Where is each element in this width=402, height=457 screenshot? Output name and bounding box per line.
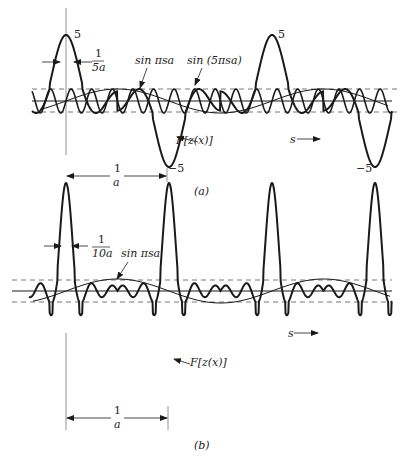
- panel-a-trough-label-2: −5: [356, 162, 372, 175]
- panel-b-period-numerator: 1: [114, 404, 121, 417]
- fourier-sampling-figure: 5 5 1 5a sin πsa sin (5πsa) F[z(x)] −5 −…: [0, 0, 402, 457]
- panel-a-trough-label: −5: [168, 162, 184, 175]
- panel-a-period-denominator: a: [113, 176, 120, 189]
- panel-a-peak-label-2: 5: [278, 28, 285, 41]
- panel-a-width-numerator: 1: [95, 47, 102, 60]
- panel-a-func-label: F[z(x)]: [175, 134, 214, 147]
- panel-a-period-numerator: 1: [114, 162, 121, 175]
- panel-b-s-axis-label: s: [288, 327, 294, 340]
- panel-b-func-label: F[z(x)]: [189, 356, 228, 369]
- panel-a-sin-fast-label: sin (5πsa): [187, 54, 242, 67]
- panel-b-sin-slow-pointer: [117, 262, 128, 279]
- panel-b: 1 10a sin πsa F[z(x)] s 1 a (b): [12, 183, 392, 452]
- panel-b-F-curve: [29, 183, 392, 315]
- panel-a-sin-fast-pointer: [195, 68, 202, 85]
- panel-b-sin-slow-label: sin πsa: [121, 247, 160, 260]
- panel-a-width-denominator: 5a: [92, 61, 106, 74]
- panel-a-sin-slow-pointer: [140, 68, 147, 88]
- panel-b-period-denominator: a: [114, 418, 121, 431]
- panel-a-s-axis-label: s: [290, 133, 296, 146]
- panel-b-func-pointer: [174, 359, 190, 364]
- panel-a: 5 5 1 5a sin πsa sin (5πsa) F[z(x)] −5 −…: [32, 8, 400, 198]
- panel-a-sin-slow-label: sin πsa: [135, 54, 174, 67]
- panel-b-caption: (b): [194, 439, 210, 452]
- panel-b-width-denominator: 10a: [92, 247, 113, 260]
- panel-a-peak-label: 5: [74, 28, 81, 41]
- panel-b-width-numerator: 1: [98, 233, 105, 246]
- panel-a-caption: (a): [194, 185, 209, 198]
